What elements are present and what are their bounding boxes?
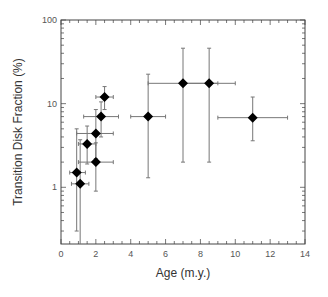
diamond-marker [82,139,92,149]
x-tick-label: 14 [300,249,310,259]
x-tick-label: 12 [265,249,275,259]
y-tick-label: 100 [42,15,57,25]
diamond-marker [204,78,214,88]
y-axis-title: Transition Disk Fraction (%) [11,58,25,206]
x-tick-label: 0 [58,249,63,259]
tick-labels: 02468101214110100 [42,15,310,259]
data-markers [72,78,258,189]
x-tick-label: 4 [128,249,133,259]
diamond-marker [248,113,258,123]
x-tick-label: 10 [230,249,240,259]
x-tick-label: 2 [93,249,98,259]
x-axis-title: Age (m.y.) [156,266,210,280]
y-tick-label: 1 [52,182,57,192]
diamond-marker [100,92,110,102]
error-bars [70,48,288,244]
diamond-marker [96,112,106,122]
diamond-marker [91,157,101,167]
diamond-marker [178,78,188,88]
y-tick-label: 10 [47,99,57,109]
chart: 02468101214110100 Age (m.y.) Transition … [0,0,328,297]
diamond-marker [143,112,153,122]
x-tick-label: 8 [198,249,203,259]
x-tick-label: 6 [163,249,168,259]
